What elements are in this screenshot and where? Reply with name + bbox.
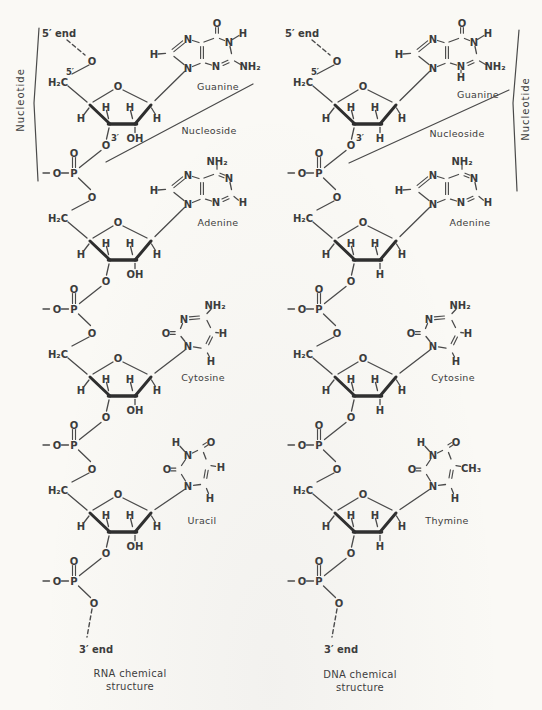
atom-N: N [429, 63, 437, 74]
atom-O-ester: O [53, 304, 62, 315]
atom-H2C: H₂C [293, 213, 313, 224]
bond [193, 451, 198, 454]
atom-O-3prime: O [102, 276, 111, 287]
atom-O-3prime: O [347, 276, 356, 287]
atom-P: P [70, 576, 77, 587]
atom-O-dbl: O [315, 148, 324, 159]
double-bond [204, 470, 205, 478]
bond [68, 494, 87, 510]
bond [230, 183, 232, 190]
bond [403, 53, 411, 54]
bond [368, 226, 392, 238]
bond [80, 287, 102, 304]
bond [439, 485, 446, 486]
bond [68, 222, 87, 238]
bond [123, 362, 147, 374]
bond [80, 559, 102, 576]
double-bond [222, 196, 228, 199]
atom-O-ring: O [114, 353, 123, 364]
bond [400, 72, 430, 101]
atom-N: N [470, 173, 478, 184]
atom-2prime-group: OH [127, 541, 144, 552]
atom-O-ester: O [298, 168, 307, 179]
bond [79, 178, 91, 190]
bond [206, 199, 212, 201]
atom-O-3prime: O [102, 548, 111, 559]
atom-O-ring: O [359, 353, 368, 364]
bond [79, 586, 91, 598]
atom-N: N [225, 173, 233, 184]
atom-O-ring: O [114, 81, 123, 92]
double-bond [434, 316, 444, 317]
atom-O-ester: O [53, 576, 62, 587]
double-bond [467, 60, 473, 63]
atom-O-dbl: O [70, 556, 79, 567]
bond [329, 108, 334, 115]
bond [194, 485, 201, 486]
atom-H: H [153, 385, 161, 396]
bond [68, 86, 87, 102]
atom-O-ring: O [359, 81, 368, 92]
bond [80, 151, 102, 168]
atom-H: H [206, 493, 214, 504]
atom-H2C: H₂C [293, 77, 313, 88]
atom-O: O [162, 328, 171, 339]
bond [338, 90, 358, 102]
three-end-dashed-link [87, 609, 92, 637]
bond [193, 200, 201, 203]
dna-three-end-label: 3′ end [324, 644, 358, 655]
sugar-ring-edge [135, 105, 151, 124]
atom-O-dbl: O [315, 556, 324, 567]
atom-NH2: NH₂ [449, 300, 470, 311]
bond [324, 586, 336, 598]
bond [438, 64, 446, 67]
base-label-dna-thymine: Thymine [424, 515, 468, 526]
bond [234, 197, 239, 201]
atom-O-terminal: O [90, 598, 99, 609]
double-bond [435, 319, 445, 320]
atom-H: H [219, 328, 227, 339]
bond [93, 226, 113, 238]
bond [107, 400, 110, 411]
atom-N: N [429, 481, 437, 492]
atom-N: N [212, 197, 220, 208]
bond [211, 466, 216, 467]
bond [174, 193, 184, 201]
atom-N: N [180, 314, 188, 325]
bond [329, 516, 334, 523]
base-label-dna-adenine: Adenine [450, 217, 491, 228]
atom-H: H [484, 28, 492, 39]
atom-O-ring: O [359, 489, 368, 500]
bond [313, 494, 332, 510]
atom-H2C: H₂C [48, 77, 68, 88]
bond [123, 498, 147, 510]
bond [352, 400, 355, 411]
atom-O-ring: O [114, 489, 123, 500]
atom-P: P [315, 304, 322, 315]
atom-NH2: NH₂ [484, 61, 505, 72]
atom-NH2: NH₂ [204, 300, 225, 311]
bond [475, 183, 477, 190]
atom-H2C: H₂C [293, 485, 313, 496]
atom-H: H [451, 493, 459, 504]
double-bond [189, 316, 199, 317]
bond [317, 65, 334, 74]
atom-N: N [429, 170, 437, 181]
bond [338, 498, 358, 510]
bond [107, 128, 110, 139]
base-label-rna-adenine: Adenine [198, 217, 239, 228]
sugar-ring-edge [135, 377, 151, 396]
nucleotide-bracket-right [513, 30, 519, 191]
atom-N: N [425, 314, 433, 325]
three-prime-label: 3′ [111, 133, 120, 143]
atom-H: H [207, 356, 215, 367]
atom-P: P [70, 168, 77, 179]
sugar-ring-edge [380, 377, 396, 396]
atom-H: H [239, 28, 247, 39]
bond [368, 90, 392, 102]
atom-O: O [163, 464, 172, 475]
bond [475, 47, 477, 54]
dna-five-end-label: 5′ end [285, 28, 319, 39]
atom-H: H [239, 197, 247, 208]
atom-N: N [184, 199, 192, 210]
